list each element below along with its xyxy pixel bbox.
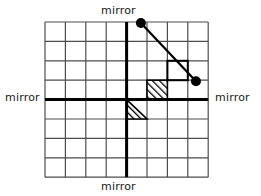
ray-end-dot xyxy=(191,76,201,86)
hatched-triangle xyxy=(127,100,147,119)
mirror-grid-diagram xyxy=(0,0,261,196)
mirror-lines xyxy=(45,22,208,177)
ray-start-dot xyxy=(136,18,146,28)
figure-container: mirror mirror mirror mirror xyxy=(0,0,261,196)
hatched-square xyxy=(147,80,167,99)
